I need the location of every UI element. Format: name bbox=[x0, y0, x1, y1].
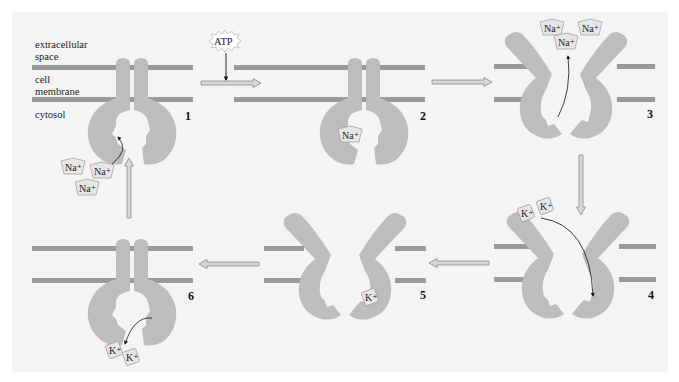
svg-text:Na⁺: Na⁺ bbox=[558, 37, 575, 48]
step-number-6: 6 bbox=[188, 289, 194, 303]
membrane-outer-line bbox=[234, 65, 425, 70]
label-extracellular: extracellular bbox=[35, 39, 88, 50]
sodium-ion-released: Na⁺ bbox=[578, 19, 602, 35]
svg-text:K⁺: K⁺ bbox=[126, 352, 139, 363]
svg-text:Na⁺: Na⁺ bbox=[544, 23, 561, 34]
membrane-outer-line bbox=[32, 65, 193, 70]
sodium-ion: Na⁺ bbox=[90, 162, 114, 178]
membrane-outer-line bbox=[264, 246, 304, 251]
step-number-3: 3 bbox=[647, 107, 653, 121]
membrane-outer-line bbox=[32, 246, 193, 251]
svg-text:K⁺: K⁺ bbox=[540, 201, 553, 212]
label-membrane: membrane bbox=[35, 86, 80, 97]
svg-text:Na⁺: Na⁺ bbox=[79, 183, 96, 194]
sodium-ion-bound: Na⁺ bbox=[338, 126, 362, 142]
label-cell: cell bbox=[35, 74, 50, 85]
step-number-1: 1 bbox=[185, 109, 191, 123]
svg-text:K⁺: K⁺ bbox=[109, 345, 122, 356]
step-number-2: 2 bbox=[420, 109, 426, 123]
svg-text:K⁺: K⁺ bbox=[365, 292, 378, 303]
membrane-inner-line bbox=[234, 97, 425, 102]
atp-label: ATP bbox=[214, 36, 233, 47]
sodium-ion: Na⁺ bbox=[61, 158, 85, 174]
membrane-inner-line bbox=[619, 277, 656, 282]
membrane-inner-line bbox=[617, 97, 655, 102]
step-number-5: 5 bbox=[420, 288, 426, 302]
membrane-inner-line bbox=[395, 278, 426, 283]
membrane-outer-line bbox=[395, 246, 426, 251]
membrane-inner-line bbox=[264, 278, 304, 283]
sodium-ion-released: Na⁺ bbox=[540, 19, 564, 35]
sodium-potassium-pump-diagram: extracellular space cell membrane cytoso… bbox=[0, 0, 679, 382]
membrane-outer-line bbox=[617, 64, 655, 69]
step-number-4: 4 bbox=[648, 288, 654, 302]
membrane-outer-line bbox=[619, 244, 656, 249]
svg-text:K⁺: K⁺ bbox=[521, 208, 534, 219]
sodium-ion-released: Na⁺ bbox=[554, 33, 578, 49]
sodium-ion: Na⁺ bbox=[75, 179, 99, 195]
svg-text:Na⁺: Na⁺ bbox=[65, 162, 82, 173]
label-space: space bbox=[35, 51, 59, 62]
svg-text:Na⁺: Na⁺ bbox=[342, 130, 359, 141]
svg-text:Na⁺: Na⁺ bbox=[94, 166, 111, 177]
svg-text:Na⁺: Na⁺ bbox=[582, 23, 599, 34]
label-cytosol: cytosol bbox=[35, 109, 65, 120]
